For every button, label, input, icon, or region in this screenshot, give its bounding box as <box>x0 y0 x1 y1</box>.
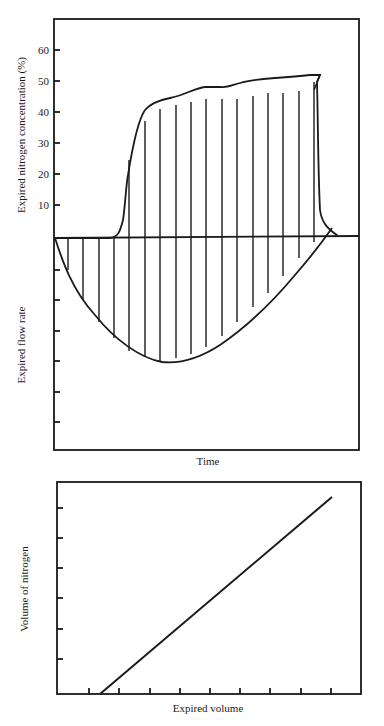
x-axis-label-time: Time <box>197 455 220 467</box>
y-tick-50: 50 <box>38 75 50 87</box>
y-tick-10: 10 <box>38 199 50 211</box>
y-axis-label-nitrogen-volume: Volume of nitrogen <box>18 546 30 632</box>
y-tick-40: 40 <box>38 106 50 118</box>
nitrogen-volume-line <box>100 497 332 694</box>
y-tick-60: 60 <box>38 44 50 56</box>
figure: 60 50 40 30 20 10 <box>0 0 384 726</box>
top-chart: 60 50 40 30 20 10 <box>15 19 359 467</box>
concentration-hatching <box>129 82 314 238</box>
bottom-chart: Volume of nitrogen Expired volume <box>18 482 361 714</box>
flow-hatching <box>68 238 314 362</box>
x-ticks-bottom <box>89 688 331 694</box>
y-axis-label-concentration: Expired nitrogen concentration (%) <box>15 57 28 213</box>
y-tick-30: 30 <box>38 137 50 149</box>
y-tick-20: 20 <box>38 168 50 180</box>
nitrogen-concentration-curve <box>54 75 338 238</box>
x-axis-label-expired-volume: Expired volume <box>173 702 244 714</box>
y-axis-label-flow: Expired flow rate <box>15 306 27 383</box>
expired-flow-rate-curve <box>55 228 332 362</box>
bottom-chart-frame <box>57 482 361 694</box>
